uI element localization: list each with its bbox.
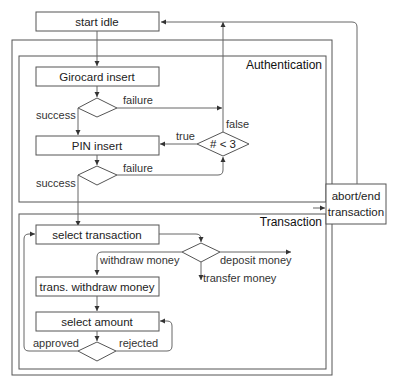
select-amount-label: select amount: [61, 316, 133, 328]
girocard-failure-label: failure: [123, 94, 153, 106]
abort-end-label-line1: abort/end: [332, 190, 381, 202]
pin-failure-label: failure: [123, 162, 153, 174]
amount-approved-label: approved: [33, 337, 79, 349]
trans-withdraw-money-label: trans. withdraw money: [39, 281, 154, 293]
start-idle-label: start idle: [75, 16, 118, 28]
atm-flow-diagram: Authentication Transaction start idle Gi…: [0, 0, 397, 384]
girocard-insert-label: Girocard insert: [59, 71, 135, 83]
abort-end-label-line2: transaction: [328, 206, 384, 218]
transfer-money-label: transfer money: [203, 272, 277, 284]
girocard-success-label: success: [36, 109, 76, 121]
pin-decision-diamond: [78, 166, 117, 185]
pin-success-label: success: [36, 177, 76, 189]
check-true-label: true: [176, 130, 195, 142]
check-false-label: false: [226, 118, 249, 130]
amount-rejected-label: rejected: [119, 337, 158, 349]
arrow-abort-to-start: [161, 22, 357, 184]
deposit-money-label: deposit money: [220, 254, 292, 266]
arrow-select-to-decision: [159, 234, 201, 242]
attempt-check-label: # < 3: [210, 138, 236, 150]
girocard-decision-diamond: [78, 98, 117, 117]
amount-decision-diamond: [78, 342, 116, 361]
authentication-title: Authentication: [246, 58, 322, 72]
transaction-title: Transaction: [260, 215, 322, 229]
withdraw-money-label: withdraw money: [99, 254, 180, 266]
transaction-decision-diamond: [182, 243, 220, 262]
select-transaction-label: select transaction: [52, 229, 142, 241]
pin-insert-label: PIN insert: [72, 140, 123, 152]
